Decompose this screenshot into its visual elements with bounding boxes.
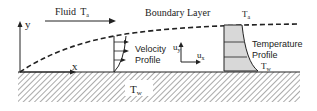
uy-label: uy: [173, 42, 181, 53]
velocity-profile-label-line1: Velocity: [135, 44, 167, 54]
y-axis-label: y: [25, 18, 31, 30]
temperature-profile-label-line2: Profile: [252, 50, 278, 60]
ux-label: ux: [197, 50, 205, 61]
velocity-profile: [114, 36, 129, 72]
fluid-label: FluidTa: [55, 6, 89, 18]
boundary-layer-diagram: y x FluidTa Boundary Layer Velocity Prof…: [0, 0, 317, 111]
temperature-profile-label-line1: Temperature: [252, 39, 303, 49]
y-axis-arrow-icon: [18, 21, 23, 27]
wall-hatched: [18, 72, 300, 102]
x-axis-label: x: [72, 60, 78, 72]
boundary-layer-title: Boundary Layer: [145, 7, 211, 18]
ux-arrow-icon: [196, 60, 201, 65]
wall-temp-profile-label: Tw: [261, 61, 272, 72]
velocity-profile-label-line2: Profile: [135, 55, 161, 65]
flow-arrow-head-icon: [109, 18, 116, 24]
free-stream-temp-label: Ta: [242, 9, 251, 20]
